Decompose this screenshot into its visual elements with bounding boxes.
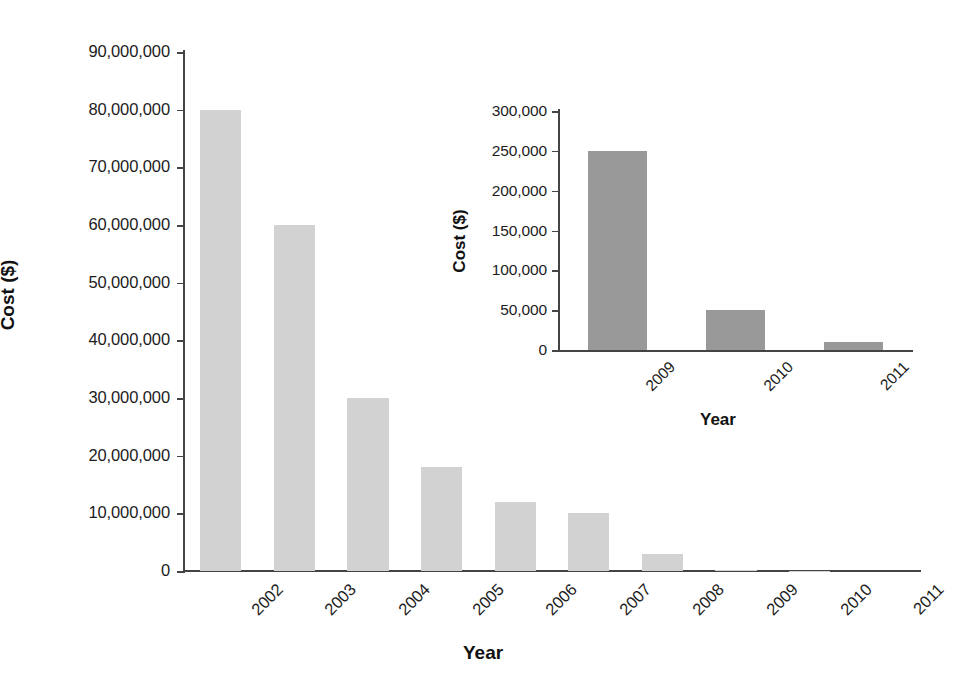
inset-plot-area: [559, 111, 912, 350]
inset-x-axis-title: Year: [700, 410, 736, 430]
inset-y-tick-label: 50,000: [500, 301, 547, 319]
inset-y-tick-label: 250,000: [492, 142, 547, 160]
bar-2010: [706, 310, 765, 350]
x-tick-label-2010: 2010: [759, 358, 796, 395]
inset-y-tick-label: 0: [538, 341, 547, 359]
inset-y-tick-label: 100,000: [492, 261, 547, 279]
inset-y-tick-label: 150,000: [492, 222, 547, 240]
inset-y-tick-label: 300,000: [492, 102, 547, 120]
inset-y-axis-title: Cost ($): [450, 209, 470, 272]
bar-2011: [824, 342, 883, 350]
x-tick-label-2009: 2009: [642, 358, 679, 395]
bar-2009: [588, 151, 647, 350]
inset-x-axis-line: [558, 350, 913, 352]
inset-bar-chart: Cost ($) 300,000250,000200,000150,000100…: [0, 0, 957, 686]
x-tick-label-2011: 2011: [877, 358, 913, 394]
inset-y-tick-label: 200,000: [492, 182, 547, 200]
